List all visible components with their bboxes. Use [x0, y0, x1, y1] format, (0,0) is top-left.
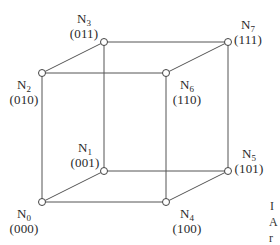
node-name-base: N — [242, 146, 251, 161]
node-label-n2: N2(010) — [9, 77, 38, 107]
caption-fragment: A — [269, 215, 278, 229]
node-binary-code: (001) — [70, 155, 99, 170]
node-circle-n4 — [163, 199, 170, 206]
node-circle-n1 — [101, 168, 108, 175]
node-label-n5: N5(101) — [234, 146, 263, 176]
node-circle-n5 — [225, 168, 232, 175]
node-label-n7: N7(111) — [234, 17, 262, 47]
edge-n4-n5 — [166, 171, 228, 202]
node-name-base: N — [241, 17, 250, 32]
node-binary-code: (100) — [172, 221, 201, 236]
node-label-n1: N1(001) — [70, 140, 99, 170]
edge-n2-n3 — [42, 42, 104, 73]
caption-fragment: I — [270, 199, 274, 213]
node-circle-n3 — [101, 39, 108, 46]
caption-fragment: r — [269, 231, 273, 245]
node-name: N7 — [241, 17, 255, 32]
node-binary-code: (110) — [173, 92, 202, 107]
node-circle-n7 — [225, 39, 232, 46]
edge-n6-n7 — [166, 42, 228, 73]
node-circle-n6 — [163, 70, 170, 77]
node-name-base: N — [180, 77, 189, 92]
node-name-base: N — [180, 206, 189, 221]
node-label-n6: N6(110) — [173, 77, 202, 107]
node-label-n0: N0(000) — [9, 206, 38, 236]
node-name-base: N — [17, 206, 26, 221]
node-name: N2 — [17, 77, 31, 92]
node-circle-n0 — [39, 199, 46, 206]
node-circle-n2 — [39, 70, 46, 77]
node-binary-code: (111) — [234, 32, 262, 47]
node-name: N3 — [77, 11, 91, 26]
node-binary-code: (000) — [9, 221, 38, 236]
node-label-n3: N3(011) — [70, 11, 99, 41]
node-name-base: N — [77, 11, 86, 26]
node-label-n4: N4(100) — [172, 206, 201, 236]
node-name: N0 — [17, 206, 31, 221]
node-binary-code: (011) — [70, 26, 99, 41]
node-name-base: N — [17, 77, 26, 92]
cube-nodes — [39, 39, 232, 206]
node-name: N6 — [180, 77, 194, 92]
node-name-base: N — [78, 140, 87, 155]
node-name: N5 — [242, 146, 256, 161]
node-name: N4 — [180, 206, 194, 221]
edge-n0-n1 — [42, 171, 104, 202]
cube-edges — [42, 42, 228, 202]
node-binary-code: (010) — [9, 92, 38, 107]
node-name: N1 — [78, 140, 92, 155]
node-binary-code: (101) — [234, 161, 263, 176]
